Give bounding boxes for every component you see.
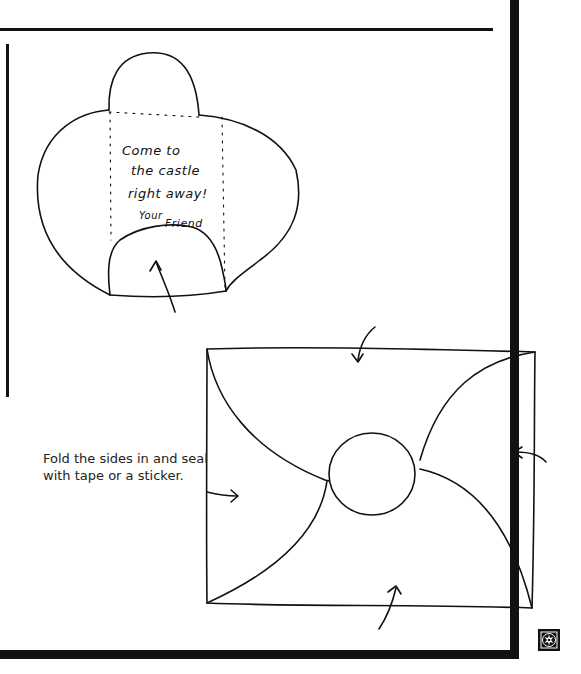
instruction-text: Fold the sides in and seal with tape or … <box>43 450 213 484</box>
arrow-up-icon <box>150 261 175 312</box>
letter-message-line-3: right away! <box>128 186 208 201</box>
fold-lines <box>109 112 225 290</box>
letter-message-line-1: Come to <box>122 143 180 158</box>
ornament-icon <box>538 629 560 651</box>
arrow-right-icon <box>207 490 238 502</box>
illustration <box>0 0 581 674</box>
arrow-left-icon <box>514 447 546 462</box>
letter-message-line-2: the castle <box>131 163 200 178</box>
letter-signature-name: Friend <box>165 217 203 230</box>
letter-signature-prefix: Your <box>139 210 163 221</box>
arrow-down-icon <box>352 327 375 362</box>
envelope-outline <box>207 348 535 608</box>
arrow-up-icon <box>379 586 401 629</box>
